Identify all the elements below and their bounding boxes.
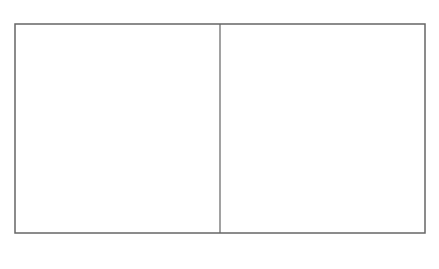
lattice-diagram bbox=[0, 0, 439, 269]
